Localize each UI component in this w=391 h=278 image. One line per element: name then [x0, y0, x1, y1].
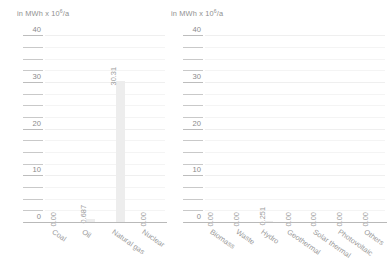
gridline [45, 152, 165, 153]
y-axis-tick-label: 20 [183, 120, 201, 128]
gridline [205, 70, 385, 71]
gridline [205, 129, 385, 130]
bar-value-label: 0.687 [79, 205, 86, 224]
gridline [45, 187, 165, 188]
y-axis-tick [183, 129, 203, 130]
bar-value-label: 0.00 [284, 212, 291, 226]
gridline [205, 82, 385, 83]
gridline [45, 70, 165, 71]
y-axis-tick [183, 210, 203, 211]
gridline [205, 140, 385, 141]
gridline [205, 187, 385, 188]
x-axis-category-label: Oil [81, 228, 93, 239]
y-axis-tick [23, 117, 43, 118]
gridline [205, 47, 385, 48]
bar-value-label: 0.00 [207, 212, 214, 226]
gridline [205, 199, 385, 200]
y-axis-tick [183, 164, 203, 165]
gridline [45, 175, 165, 176]
gridline [45, 35, 165, 36]
y-axis-tick [183, 152, 203, 153]
y-axis-tick [183, 82, 203, 83]
x-axis-category-label: Biomass [209, 228, 236, 250]
y-axis-tick [23, 175, 43, 176]
gridline [205, 175, 385, 176]
gridline [45, 164, 165, 165]
gridline [45, 117, 165, 118]
gridline [205, 105, 385, 106]
gridline [205, 94, 385, 95]
y-axis-tick [23, 94, 43, 95]
gridline [205, 35, 385, 36]
plot-area-left: 0102030400.00Coal0.687Oil30.31Natural ga… [45, 26, 165, 222]
y-axis-tick [23, 210, 43, 211]
bar [116, 81, 125, 222]
gridline [45, 47, 165, 48]
bar-value-label: 0.00 [233, 212, 240, 226]
chart-panel-renewables: in MWh x 106/a 0102030400.00Biomass0.00W… [160, 0, 391, 278]
gridline [45, 140, 165, 141]
y-axis-tick-label: 10 [183, 166, 201, 174]
y-axis-tick [23, 47, 43, 48]
gridline [45, 105, 165, 106]
y-axis-tick [23, 82, 43, 83]
bar-value-label: 0.00 [361, 212, 368, 226]
x-axis-baseline-left [24, 222, 167, 223]
y-axis-tick [23, 140, 43, 141]
x-axis-category-label: Waste [234, 228, 255, 246]
y-axis-tick-label: 40 [183, 26, 201, 34]
gridline [205, 117, 385, 118]
y-axis-tick-label: 20 [23, 120, 41, 128]
y-axis-title-right-text: in MWh x 10 [171, 9, 214, 18]
gridline [205, 164, 385, 165]
y-axis-tick [183, 187, 203, 188]
y-axis-tick [183, 140, 203, 141]
gridline [45, 59, 165, 60]
y-axis-title-left-text: in MWh x 10 [17, 9, 60, 18]
bar-value-label: 0.00 [336, 212, 343, 226]
x-axis-baseline-right [184, 222, 387, 223]
y-axis-tick [183, 175, 203, 176]
dual-bar-chart-figure: in MWh x 106/a 0102030400.00Coal0.687Oil… [0, 0, 391, 278]
y-axis-tick-label: 0 [23, 213, 41, 221]
y-axis-tick [23, 199, 43, 200]
bar-value-label: 0.00 [310, 212, 317, 226]
y-axis-tick [23, 152, 43, 153]
y-axis-tick [183, 70, 203, 71]
y-axis-tick-label: 10 [23, 166, 41, 174]
y-axis-title-left: in MWh x 106/a [17, 9, 69, 18]
bar-value-label: 0.00 [49, 212, 56, 226]
gridline [205, 59, 385, 60]
y-axis-title-left-tail: /a [63, 9, 69, 18]
y-axis-tick [23, 35, 43, 36]
y-axis-tick [23, 59, 43, 60]
bar-value-label: 30.31 [109, 66, 116, 85]
y-axis-tick [183, 94, 203, 95]
y-axis-tick [183, 47, 203, 48]
gridline [45, 129, 165, 130]
y-axis-tick [183, 59, 203, 60]
y-axis-tick-label: 0 [183, 213, 201, 221]
y-axis-tick [23, 129, 43, 130]
plot-area-right: 0102030400.00Biomass0.00Waste0.251Hydro0… [205, 26, 385, 222]
gridline [45, 94, 165, 95]
y-axis-tick [183, 117, 203, 118]
y-axis-title-right-tail: /a [217, 9, 223, 18]
x-axis-category-label: Hydro [260, 228, 280, 245]
y-axis-tick-label: 40 [23, 26, 41, 34]
y-axis-tick [183, 199, 203, 200]
y-axis-tick [183, 105, 203, 106]
y-axis-tick [23, 70, 43, 71]
y-axis-tick-label: 30 [23, 73, 41, 81]
bar-value-label: 0.00 [139, 212, 146, 226]
y-axis-title-right: in MWh x 106/a [171, 9, 223, 18]
gridline [205, 152, 385, 153]
gridline [45, 82, 165, 83]
y-axis-tick [183, 35, 203, 36]
x-axis-category-label: Coal [51, 228, 68, 243]
gridline [45, 199, 165, 200]
gridline [45, 210, 165, 211]
y-axis-tick [23, 164, 43, 165]
y-axis-tick-label: 30 [183, 73, 201, 81]
y-axis-tick [23, 105, 43, 106]
